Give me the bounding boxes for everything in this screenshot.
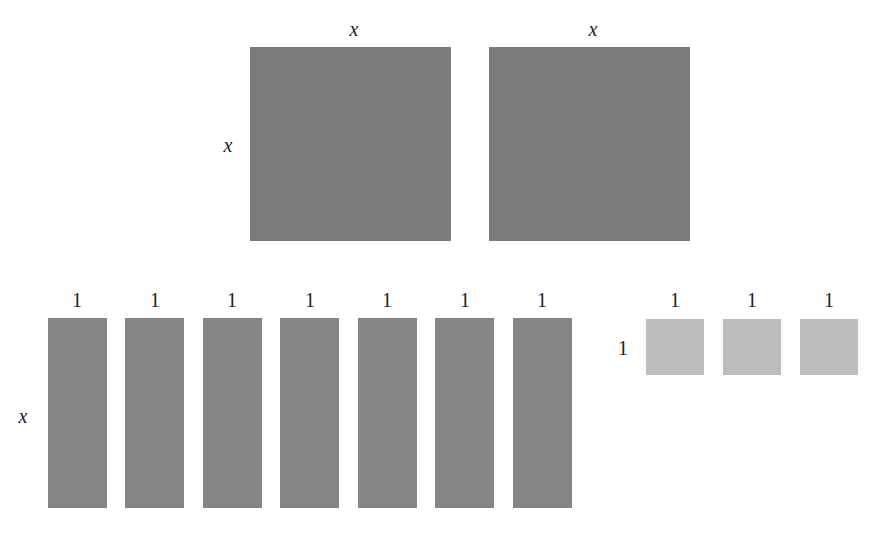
x-tile-3 — [203, 318, 262, 508]
unit-tile-3 — [800, 319, 858, 375]
x-tile-top-label-4: 1 — [305, 290, 315, 310]
x-squared-tile-top-label-1: x — [350, 19, 359, 39]
x-tile-4 — [280, 318, 339, 508]
unit-tile-side-label: 1 — [618, 338, 628, 358]
unit-tile-top-label-3: 1 — [824, 290, 834, 310]
unit-tile-top-label-2: 1 — [747, 290, 757, 310]
x-squared-tile-1 — [250, 47, 451, 241]
x-tile-6 — [435, 318, 494, 508]
x-tile-top-label-6: 1 — [460, 290, 470, 310]
x-tile-top-label-1: 1 — [72, 290, 82, 310]
x-tile-top-label-7: 1 — [537, 290, 547, 310]
x-squared-tile-side-label: x — [224, 135, 233, 155]
unit-tile-1 — [646, 319, 704, 375]
x-tile-5 — [358, 318, 417, 508]
x-squared-tile-top-label-2: x — [589, 19, 598, 39]
x-tile-7 — [513, 318, 572, 508]
x-tile-2 — [125, 318, 184, 508]
unit-tile-2 — [723, 319, 781, 375]
x-tile-1 — [48, 318, 107, 508]
x-tile-side-label: x — [19, 406, 28, 426]
x-tile-top-label-5: 1 — [382, 290, 392, 310]
unit-tile-top-label-1: 1 — [670, 290, 680, 310]
x-tile-top-label-3: 1 — [227, 290, 237, 310]
x-squared-tile-2 — [489, 47, 690, 241]
x-tile-top-label-2: 1 — [150, 290, 160, 310]
